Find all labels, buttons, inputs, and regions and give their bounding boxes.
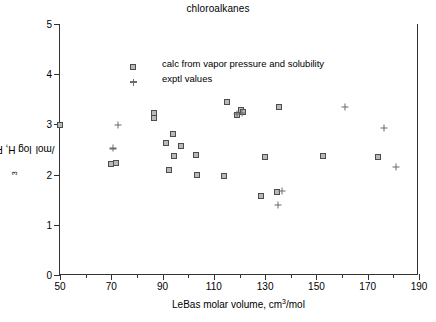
data-point-calc <box>262 154 268 160</box>
x-tick <box>368 274 369 280</box>
x-tick-minor <box>86 274 87 278</box>
y-tick-label: 5 <box>46 19 52 30</box>
x-axis-label: LeBas molar volume, cm3/mol <box>59 298 418 310</box>
x-tick-label: 170 <box>359 281 376 292</box>
legend-label-exptl: exptl values <box>162 71 212 86</box>
y-tick <box>54 24 60 25</box>
chart-figure: chloroalkanes log H, Pa m3/mol LeBas mol… <box>0 0 436 322</box>
data-point-calc <box>224 99 230 105</box>
x-tick-label: 50 <box>54 281 65 292</box>
y-tick-label: 4 <box>46 69 52 80</box>
x-axis-label-post: /mol <box>286 299 305 310</box>
data-point-calc <box>57 122 63 128</box>
x-tick <box>316 274 317 280</box>
x-tick-label: 110 <box>206 281 222 292</box>
data-point-calc <box>113 160 119 166</box>
data-point-exptl <box>381 125 388 132</box>
data-point-calc <box>151 115 157 121</box>
y-axis-label-sup: 3 <box>11 172 18 176</box>
data-point-calc <box>178 143 184 149</box>
x-tick-label: 90 <box>157 281 168 292</box>
data-point-exptl <box>274 201 281 208</box>
data-point-calc <box>170 131 176 137</box>
data-point-calc <box>171 153 177 159</box>
y-tick <box>54 225 60 226</box>
data-point-exptl <box>239 110 246 117</box>
y-tick-label: 3 <box>46 119 52 130</box>
y-axis-label-post: /mol <box>3 144 55 155</box>
y-tick-label: 1 <box>46 219 52 230</box>
chart-title: chloroalkanes <box>0 3 436 14</box>
data-point-calc <box>166 167 172 173</box>
x-axis-label-pre: LeBas molar volume, cm <box>172 299 282 310</box>
y-tick-label: 0 <box>46 270 52 281</box>
data-point-exptl <box>392 164 399 171</box>
x-tick <box>419 274 420 280</box>
data-point-calc <box>375 154 381 160</box>
x-tick-minor <box>291 274 292 278</box>
plot-area: 012345 507090110130150170190 calc from v… <box>59 24 418 275</box>
data-point-calc <box>194 172 200 178</box>
data-point-calc <box>276 104 282 110</box>
x-tick-minor <box>342 274 343 278</box>
data-point-calc <box>163 140 169 146</box>
x-tick-minor <box>188 274 189 278</box>
y-tick-label: 2 <box>46 169 52 180</box>
x-tick-minor <box>393 274 394 278</box>
x-tick <box>60 274 61 280</box>
data-point-exptl <box>109 145 116 152</box>
x-tick <box>163 274 164 280</box>
x-tick-minor <box>240 274 241 278</box>
x-tick-label: 130 <box>257 281 274 292</box>
data-point-calc <box>193 152 199 158</box>
x-tick <box>214 274 215 280</box>
x-tick-label: 150 <box>308 281 325 292</box>
y-tick <box>54 74 60 75</box>
data-point-calc <box>258 193 264 199</box>
y-tick <box>54 175 60 176</box>
x-tick-label: 70 <box>106 281 117 292</box>
y-axis-label: log H, Pa m3/mol <box>9 24 25 275</box>
data-point-exptl <box>278 187 285 194</box>
data-point-exptl <box>114 121 121 128</box>
data-point-exptl <box>341 103 348 110</box>
x-tick-minor <box>137 274 138 278</box>
data-point-calc <box>221 173 227 179</box>
legend-label-calc: calc from vapor pressure and solubility <box>162 56 324 71</box>
x-tick <box>111 274 112 280</box>
x-tick <box>265 274 266 280</box>
x-tick-label: 190 <box>411 281 428 292</box>
data-point-calc <box>320 153 326 159</box>
